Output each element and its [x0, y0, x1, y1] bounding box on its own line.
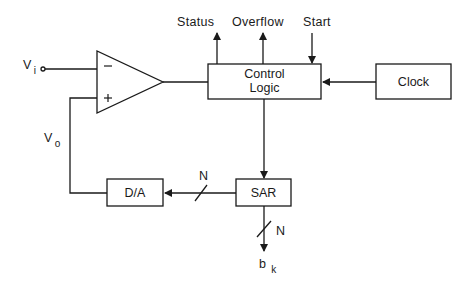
status-label: Status [177, 16, 214, 29]
vo-label: Vo [44, 132, 61, 145]
feedback-wire-vo [70, 98, 107, 193]
diagram-canvas [0, 0, 474, 288]
clock-label: Clock [376, 75, 451, 89]
vi-terminal [41, 67, 45, 71]
sar-label: SAR [236, 186, 291, 200]
vi-label: Vi [23, 59, 36, 72]
control-logic-line1: Control [208, 67, 321, 81]
bus-width-dac-label: N [199, 170, 208, 183]
overflow-label: Overflow [232, 16, 284, 29]
control-logic-label: Control Logic [208, 67, 321, 96]
comparator-triangle [97, 51, 163, 113]
control-logic-line2: Logic [208, 81, 321, 95]
bk-label: bk [259, 258, 277, 271]
dac-label: D/A [107, 186, 163, 200]
start-label: Start [303, 16, 331, 29]
bus-width-out-label: N [276, 225, 285, 238]
